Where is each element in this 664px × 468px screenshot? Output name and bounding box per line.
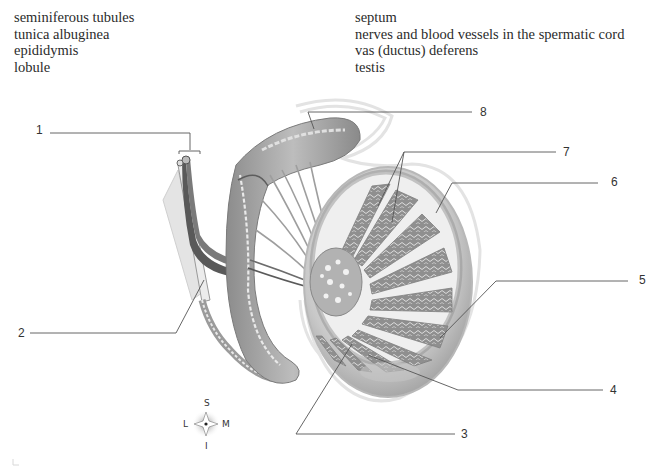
testis-anatomy-illustration [0,0,664,468]
callout-number-1: 1 [36,124,43,136]
compass-lateral-label: L [183,420,188,429]
callout-number-8: 8 [480,106,487,118]
leader-line-2 [30,280,204,333]
compass-superior-label: S [204,399,210,408]
callout-number-6: 6 [611,176,618,188]
leader-line-1-bracket [179,151,200,154]
compass-rose [192,410,220,438]
callout-number-2: 2 [18,327,25,339]
rete-testis [310,248,362,316]
callout-number-7: 7 [563,146,570,158]
callout-number-4: 4 [610,384,617,396]
callout-number-3: 3 [461,428,468,440]
leader-line-1 [50,133,190,150]
callout-number-5: 5 [639,274,646,286]
corner-triangle-icon [12,458,20,466]
compass-inferior-label: I [205,442,208,451]
compass-medial-label: M [222,420,230,429]
